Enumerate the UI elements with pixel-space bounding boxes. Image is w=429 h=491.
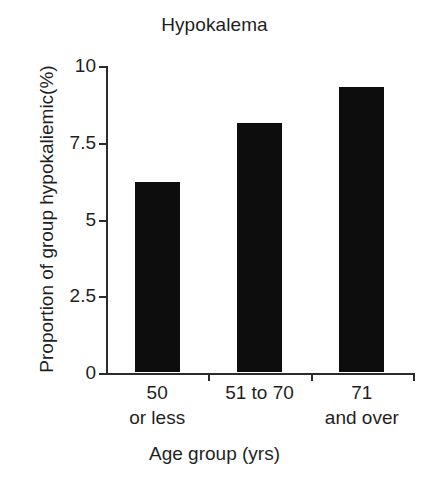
- y-tick-mark: [99, 143, 107, 145]
- x-axis-tick-labels: 50or less51 to 7071and over: [106, 380, 413, 438]
- y-tick-label: 2.5: [70, 285, 96, 307]
- y-axis-title: Proportion of group hypokaliemic(%): [36, 54, 58, 384]
- x-tick-label-line1: 51 to 70: [208, 380, 310, 405]
- x-tick-label: 51 to 70: [208, 380, 310, 405]
- bar: [135, 182, 180, 372]
- x-tick-mark: [413, 373, 415, 381]
- x-tick-label: 50or less: [106, 380, 208, 430]
- y-tick-label: 10: [75, 55, 96, 77]
- y-tick-label: 5: [85, 209, 96, 231]
- x-tick-label: 71and over: [311, 380, 413, 430]
- bar: [339, 87, 384, 373]
- chart-title: Hypokalema: [0, 14, 429, 36]
- x-tick-label-line1: 50: [106, 380, 208, 405]
- x-tick-label-line2: or less: [106, 405, 208, 430]
- y-tick-label: 0: [85, 362, 96, 384]
- y-tick-mark: [99, 296, 107, 298]
- x-tick-label-line1: 71: [311, 380, 413, 405]
- bar: [237, 123, 282, 372]
- y-tick-mark: [99, 373, 107, 375]
- y-tick-mark: [99, 220, 107, 222]
- figure: Hypokalema Proportion of group hypokalie…: [0, 0, 429, 491]
- x-axis-line: [106, 373, 413, 375]
- y-tick-mark: [99, 66, 107, 68]
- x-tick-label-line2: and over: [311, 405, 413, 430]
- x-axis-title: Age group (yrs): [0, 443, 429, 465]
- plot-area: 02.557.510: [106, 66, 413, 374]
- y-tick-label: 7.5: [70, 132, 96, 154]
